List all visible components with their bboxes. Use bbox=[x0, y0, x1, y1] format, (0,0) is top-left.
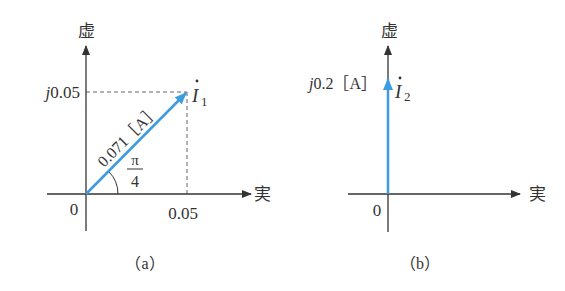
svg-text:4: 4 bbox=[131, 173, 139, 190]
magnitude-label: 0.071［A］ bbox=[94, 102, 162, 170]
imag-axis-label: 虚 bbox=[78, 21, 95, 41]
phasor-diagram: 虚 実 0 0.05 j0.05 I 1 0.071［A］ π 4 （a） 虚 … bbox=[0, 0, 565, 291]
svg-text:2: 2 bbox=[404, 89, 411, 104]
real-axis-label: 実 bbox=[529, 184, 546, 204]
real-tick-label: 0.05 bbox=[168, 204, 198, 223]
value-label: j0.2［A］ bbox=[307, 75, 377, 93]
phasor-i2-label: I 2 bbox=[394, 77, 411, 104]
svg-text:π: π bbox=[131, 152, 139, 168]
panel-a: 虚 実 0 0.05 j0.05 I 1 0.071［A］ π 4 （a） bbox=[44, 21, 271, 272]
angle-arc bbox=[109, 171, 118, 194]
origin-label: 0 bbox=[70, 200, 79, 219]
caption-b: （b） bbox=[400, 255, 440, 272]
phasor-i1-label: I 1 bbox=[191, 80, 208, 109]
svg-text:1: 1 bbox=[201, 94, 208, 109]
imag-axis-label: 虚 bbox=[381, 21, 398, 41]
real-axis-label: 実 bbox=[254, 184, 271, 204]
origin-label: 0 bbox=[373, 201, 382, 220]
caption-a: （a） bbox=[125, 255, 164, 272]
svg-text:I: I bbox=[191, 85, 200, 106]
panel-b: 虚 実 0 j0.2［A］ I 2 （b） bbox=[307, 21, 546, 272]
angle-label: π 4 bbox=[127, 152, 143, 190]
imag-tick-label: j0.05 bbox=[44, 83, 80, 102]
svg-text:I: I bbox=[394, 81, 403, 102]
